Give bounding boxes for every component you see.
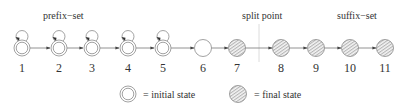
state-label-4: 4 bbox=[125, 61, 131, 75]
state-labels: 1 2 3 4 5 6 7 8 9 10 11 bbox=[19, 61, 391, 75]
state-10 bbox=[342, 40, 359, 57]
prefix-set-label: prefix−set bbox=[43, 10, 84, 21]
legend: = initial state = final state bbox=[120, 86, 302, 103]
state-label-11: 11 bbox=[379, 61, 391, 75]
state-5 bbox=[155, 40, 171, 56]
state-6 bbox=[195, 40, 212, 57]
suffix-set-label: suffix−set bbox=[337, 10, 377, 21]
legend-final-state-label: = final state bbox=[254, 89, 302, 100]
state-label-3: 3 bbox=[89, 61, 95, 75]
state-label-1: 1 bbox=[19, 61, 25, 75]
state-label-5: 5 bbox=[160, 61, 166, 75]
legend-initial-state-icon bbox=[120, 86, 136, 102]
state-label-7: 7 bbox=[234, 61, 240, 75]
state-2 bbox=[51, 40, 67, 56]
self-loops bbox=[16, 31, 169, 41]
state-9 bbox=[308, 40, 325, 57]
split-point-label: split point bbox=[242, 10, 283, 21]
state-label-10: 10 bbox=[344, 61, 356, 75]
legend-final-state-icon bbox=[230, 86, 247, 103]
state-8 bbox=[273, 40, 290, 57]
state-3 bbox=[84, 40, 100, 56]
state-7 bbox=[229, 40, 246, 57]
state-label-9: 9 bbox=[313, 61, 319, 75]
legend-initial-state-label: = initial state bbox=[143, 89, 196, 100]
state-label-2: 2 bbox=[56, 61, 62, 75]
state-1 bbox=[14, 40, 30, 56]
state-label-6: 6 bbox=[200, 61, 206, 75]
state-label-8: 8 bbox=[278, 61, 284, 75]
state-11 bbox=[377, 40, 394, 57]
automaton-diagram: prefix−set split point suffix−set bbox=[0, 0, 414, 109]
state-4 bbox=[120, 40, 136, 56]
